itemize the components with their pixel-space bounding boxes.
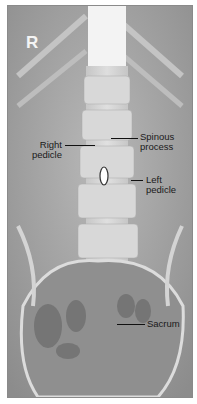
xray-image	[8, 6, 192, 397]
label-right-pedicle: Right pedicle	[28, 140, 62, 160]
label-left-pedicle: Left pedicle	[146, 175, 176, 195]
label-sacrum: Sacrum	[147, 319, 180, 329]
right-pedicle-leader-line	[65, 145, 95, 146]
spinous-process-leader-line	[111, 138, 138, 139]
sacrum-leader-line	[117, 324, 145, 325]
left-pedicle-leader-line	[131, 180, 143, 181]
label-spinous-process: Spinous process	[140, 132, 174, 152]
orientation-marker: R	[26, 33, 38, 53]
xray-figure: R Spinous process Right pedicle Left ped…	[7, 5, 193, 398]
